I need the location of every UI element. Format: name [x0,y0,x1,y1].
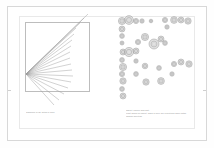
bubble-marker [170,72,174,76]
ray-diagram-panel: Sampling a ray within a cone [14,12,102,120]
bubble-marker [142,63,148,69]
registration-tick-left [8,90,11,91]
left-panel-caption: Sampling a ray within a cone [26,111,98,114]
bubble-marker [171,61,176,66]
bubble-marker [119,63,126,70]
ray-line [26,74,59,100]
bubble-marker [186,61,192,67]
bubble-marker [120,34,125,39]
bubble-marker [178,17,184,23]
bubble-marker [157,66,162,71]
bubble-marker [134,59,138,63]
bubble-marker [133,48,139,54]
bubble-scatter-panel: Object, source and light Light falling o… [112,12,206,120]
bubble-marker [143,79,149,85]
bubble-marker [171,17,178,24]
bubble-scatter-graphic [112,12,206,106]
right-caption-line-3: change direction [126,115,204,118]
right-panel-caption: Object, source and light Light falling o… [126,109,204,118]
bubble-marker [124,47,133,56]
bubble-marker [178,59,184,65]
bubble-marker [134,72,139,77]
ray-line [26,74,64,94]
bubble-marker [162,17,167,22]
document-page: Sampling a ray within a cone Object, sou… [0,0,214,148]
bubble-marker [120,41,124,45]
bubble-marker [120,58,125,63]
bubble-marker [119,26,125,32]
bubble-marker [125,16,134,25]
bubble-marker [149,19,153,23]
bubble-marker [120,78,126,84]
ray-lines-graphic [14,12,102,108]
bubble-marker [119,71,124,76]
bubble-marker [185,18,191,24]
bubble-marker [141,33,148,40]
bubble-marker [120,87,125,92]
ray-line [26,74,73,76]
bubble-marker [120,93,126,99]
ray-line [26,74,71,82]
bubble-marker [163,41,168,46]
bubble-marker [140,19,144,23]
bubble-marker [149,39,159,49]
ray-line [26,28,76,74]
ray-line [26,34,74,74]
bubble-marker [165,25,169,29]
bubble-marker [133,18,138,23]
bubble-marker [158,78,165,85]
bubble-marker [158,36,164,42]
bubble-marker [135,39,140,44]
